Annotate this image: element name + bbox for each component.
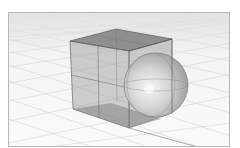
perspective-viewport[interactable]: Perspective — [8, 12, 230, 147]
scene-canvas[interactable] — [9, 13, 230, 147]
sphere-object[interactable] — [124, 53, 188, 117]
